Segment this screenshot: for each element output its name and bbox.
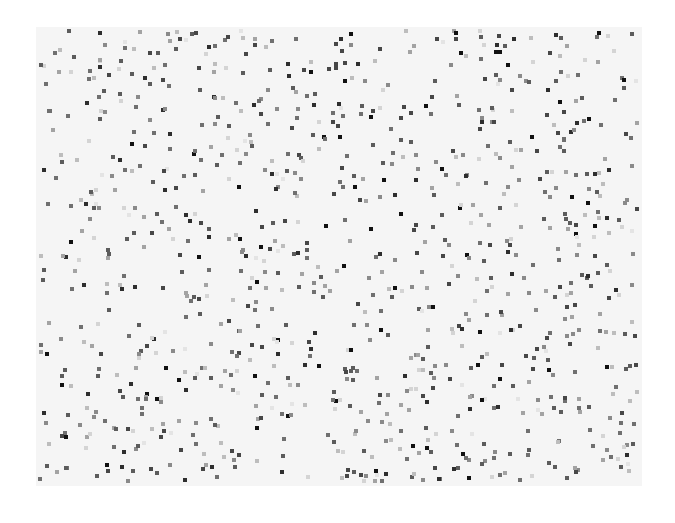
random-dot-field <box>36 27 642 486</box>
dot-canvas <box>36 27 642 486</box>
